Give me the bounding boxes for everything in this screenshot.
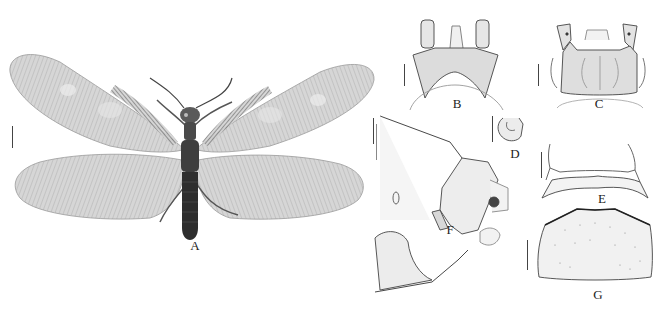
scale-bar-b (404, 64, 405, 86)
panel-label-g: G (593, 288, 602, 301)
scale-bar-a-left (12, 126, 13, 148)
figure-plate: A B C (0, 0, 672, 314)
panel-d-sclerite: D (485, 110, 535, 170)
panel-label-a: A (190, 239, 199, 252)
panel-label-c: C (595, 97, 604, 110)
scale-bar-f (373, 118, 374, 144)
panel-label-b: B (453, 97, 462, 110)
panel-g-plate: G (525, 205, 670, 314)
panel-c-terminalia-ventral: C (545, 10, 655, 115)
scale-bar-g (527, 240, 528, 270)
panel-label-e: E (598, 192, 606, 205)
scale-bar-e (541, 152, 542, 178)
panel-e-sclerite: E (540, 140, 670, 205)
panel-label-d: D (510, 147, 519, 160)
scale-bar-d (492, 116, 493, 142)
panel-a-habitus: A (0, 0, 380, 280)
panel-b-terminalia-dorsal: B (405, 10, 505, 115)
scale-bar-c (538, 64, 539, 86)
panel-label-f: F (446, 223, 453, 236)
